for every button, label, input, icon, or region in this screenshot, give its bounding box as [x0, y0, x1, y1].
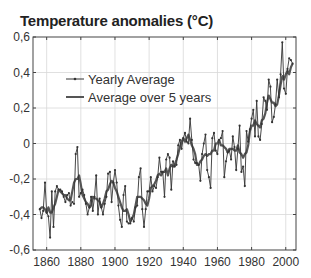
y-tick-label: 0,2: [13, 101, 30, 115]
x-tick-label: 1920: [136, 255, 163, 269]
x-tick-label: 1940: [170, 255, 197, 269]
legend: Yearly Average Average over 5 years: [66, 72, 212, 105]
x-tick-label: 1980: [238, 255, 265, 269]
y-tick-label: 0: [23, 137, 30, 151]
legend-item-yearly: Yearly Average: [88, 72, 175, 87]
y-tick-label: -0,4: [9, 208, 30, 222]
series-yearly-average: [39, 41, 294, 239]
series-average-5-years: [40, 64, 293, 222]
legend-yearly-marker-icon: [74, 78, 77, 81]
x-tick-label: 1880: [67, 255, 94, 269]
x-tick-label: 1900: [102, 255, 129, 269]
grid-lines: [33, 37, 296, 250]
y-tick-label: 0,4: [13, 66, 30, 80]
legend-item-average: Average over 5 years: [88, 90, 212, 105]
y-tick-label: -0,2: [9, 172, 30, 186]
x-tick-label: 1860: [33, 255, 60, 269]
x-tick-label: 2000: [272, 255, 299, 269]
x-tick-label: 1960: [204, 255, 231, 269]
chart-plot: 18601880190019201940196019802000 0,60,40…: [0, 0, 311, 278]
y-tick-label: -0,6: [9, 243, 30, 257]
y-tick-label: 0,6: [13, 30, 30, 44]
